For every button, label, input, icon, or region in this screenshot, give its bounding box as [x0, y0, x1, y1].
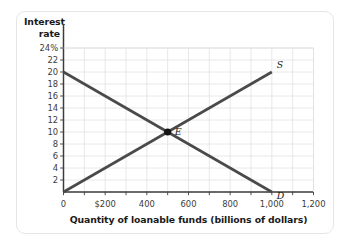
x-tick-label: 0	[42, 199, 86, 209]
marker-group	[164, 128, 171, 135]
x-tick-label: 1,000	[250, 199, 294, 209]
y-tick-label: 14	[32, 103, 58, 113]
y-tick-label: 12	[32, 115, 58, 125]
x-tick-label: $200	[83, 199, 127, 209]
y-tick-label: 4	[32, 163, 58, 173]
y-tick-label: 8	[32, 139, 58, 149]
y-tick-label: 20	[32, 67, 58, 77]
loanable-funds-chart: Interest rate Quantity of loanable funds…	[0, 0, 351, 247]
x-tick-label: 400	[125, 199, 169, 209]
y-tick-label: 10	[32, 127, 58, 137]
y-tick-label: 16	[32, 91, 58, 101]
x-tick-label: 800	[208, 199, 252, 209]
curve-label-S: S	[277, 59, 283, 70]
y-tick-label: 2	[32, 175, 58, 185]
equilibrium-point-marker	[164, 128, 171, 135]
y-tick-label: 22	[32, 55, 58, 65]
y-tick-label: 18	[32, 79, 58, 89]
y-tick-label: 24%	[32, 43, 58, 53]
y-tick-label: 6	[32, 151, 58, 161]
x-tick-label: 600	[167, 199, 211, 209]
equilibrium-label: E	[175, 126, 182, 137]
x-tick-label: 1,200	[292, 199, 336, 209]
curve-label-D: D	[277, 190, 285, 201]
